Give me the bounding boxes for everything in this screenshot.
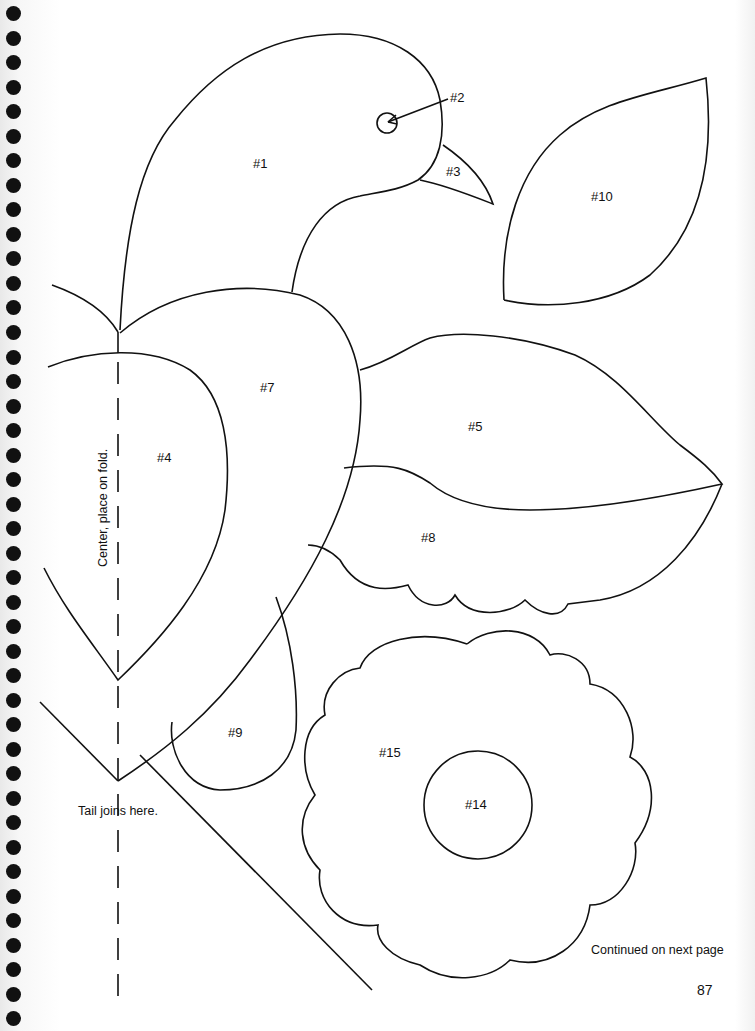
piece-label-10: #10 [591,189,613,204]
piece-label-9: #9 [228,725,242,740]
piece-label-4: #4 [157,450,171,465]
piece-1-outline [120,34,442,330]
piece-9-outline [171,597,296,790]
junction-arc [52,285,118,332]
piece-label-3: #3 [446,164,460,179]
piece-2-pointer [388,99,448,122]
fold-instruction: Center, place on fold. [96,449,110,567]
tail-diagonal [140,755,372,990]
piece-5-outline [344,334,722,510]
piece-4-outline [44,353,227,680]
continued-note: Continued on next page [591,943,724,957]
piece-label-5: #5 [468,419,482,434]
piece-label-1: #1 [253,156,267,171]
piece-label-7: #7 [260,380,274,395]
piece-8-outline [308,484,722,614]
page-number: 87 [697,982,713,998]
tail-v-left [40,702,118,781]
tail-instruction: Tail joins here. [78,804,158,818]
pattern-page: #1 #2 #3 #10 #7 #4 #5 #8 #9 #15 #14 Cent… [0,0,755,1031]
piece-label-15: #15 [379,745,401,760]
piece-label-2: #2 [450,90,464,105]
pattern-outlines [0,0,755,1031]
piece-label-8: #8 [421,530,435,545]
piece-label-14: #14 [465,797,487,812]
